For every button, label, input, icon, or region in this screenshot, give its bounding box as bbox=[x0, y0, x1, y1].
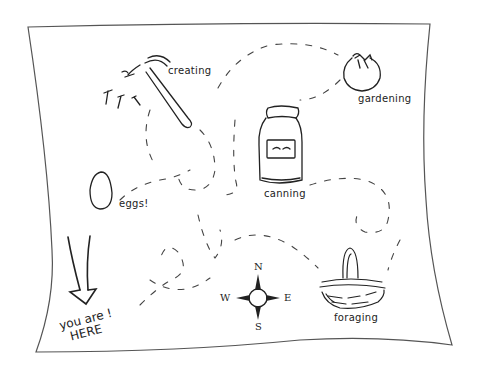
foraging-label: foraging bbox=[334, 312, 378, 323]
creating-label: creating bbox=[168, 65, 211, 76]
compass-north: N bbox=[254, 261, 263, 272]
eggs-label: eggs! bbox=[119, 198, 149, 209]
paper-sheet bbox=[28, 23, 452, 352]
compass-south: S bbox=[255, 321, 262, 332]
compass-east: E bbox=[284, 292, 291, 303]
canning-label: canning bbox=[264, 188, 306, 199]
compass-west: W bbox=[220, 292, 230, 303]
gardening-label: gardening bbox=[358, 93, 411, 104]
